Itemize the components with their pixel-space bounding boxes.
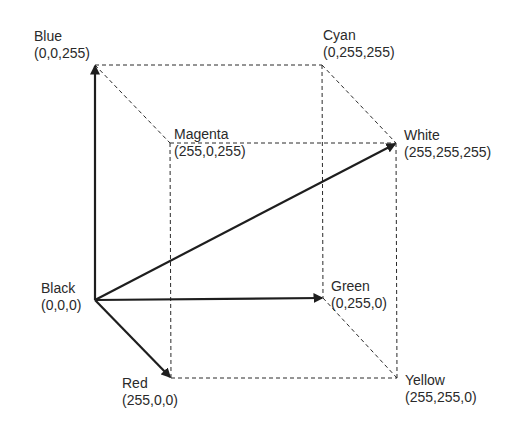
vertex-label-black: Black (0,0,0) [41,280,81,314]
arrow-black-to-red [95,300,170,377]
vertex-label-yellow: Yellow (255,255,0) [405,372,477,406]
edge-cyan-white [322,65,396,143]
vertex-label-green: Green (0,255,0) [331,278,387,312]
vertex-label-cyan: Cyan (0,255,255) [323,27,395,61]
vertex-name: Green [331,278,387,295]
vertex-rgb: (255,0,255) [174,143,246,160]
vertex-rgb: (0,255,0) [331,295,387,312]
vertex-label-blue: Blue (0,0,255) [34,28,90,62]
vertex-name: White [404,127,491,144]
vertex-name: Black [41,280,81,297]
vertex-rgb: (0,0,0) [41,297,81,314]
vertex-name: Blue [34,28,90,45]
vertex-rgb: (255,0,0) [122,392,178,409]
vertex-name: Cyan [323,27,395,44]
arrow-black-to-white [95,144,395,300]
arrow-black-to-green [95,298,322,300]
edge-blue-magenta [95,65,170,143]
vertex-rgb: (255,255,255) [404,144,491,161]
vertex-label-white: White (255,255,255) [404,127,491,161]
vertex-name: Yellow [405,372,477,389]
vertex-label-red: Red (255,0,0) [122,375,178,409]
vertex-name: Red [122,375,178,392]
vertex-label-magenta: Magenta (255,0,255) [174,126,246,160]
edge-white-yellow [396,143,397,378]
vertex-rgb: (0,0,255) [34,45,90,62]
vertex-rgb: (255,255,0) [405,389,477,406]
vertex-rgb: (0,255,255) [323,44,395,61]
axis-arrows [95,66,395,377]
vertex-name: Magenta [174,126,246,143]
